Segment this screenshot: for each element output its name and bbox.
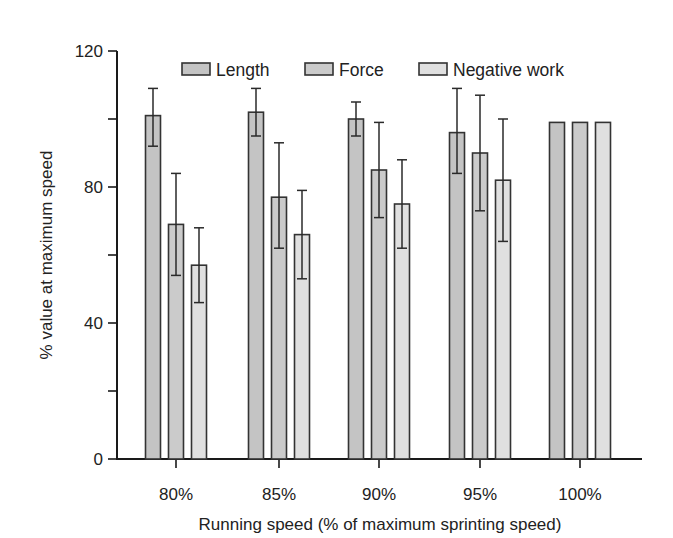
y-axis-title: % value at maximum speed [37,151,56,360]
bar-length [450,133,465,459]
legend-swatch-negative-work [419,63,447,75]
bar-length [550,122,565,459]
bar-length [249,112,264,459]
x-tick-label: 95% [463,485,497,504]
legend-label-negative-work: Negative work [453,60,564,80]
y-axis: 04080120 [75,42,117,469]
x-axis-title: Running speed (% of maximum sprinting sp… [199,515,562,534]
x-axis: 80%85%90%95%100% [116,459,642,504]
y-tick-label: 80 [84,178,103,197]
x-tick-label: 85% [262,485,296,504]
bar-force [573,122,588,459]
y-tick-label: 120 [75,42,103,61]
legend: LengthForceNegative work [182,60,564,80]
x-tick-label: 100% [558,485,601,504]
bar-length [349,119,364,459]
x-tick-label: 90% [362,485,396,504]
bar-negative-work [596,122,611,459]
bars [146,88,611,459]
legend-label-length: Length [216,60,270,80]
y-tick-label: 0 [94,450,103,469]
y-tick-label: 40 [84,314,103,333]
x-tick-label: 80% [159,485,193,504]
legend-label-force: Force [339,60,384,80]
legend-swatch-length [182,63,210,75]
bar-length [146,116,161,459]
bar-chart: 04080120 80%85%90%95%100% LengthForceNeg… [0,0,673,538]
legend-swatch-force [305,63,333,75]
